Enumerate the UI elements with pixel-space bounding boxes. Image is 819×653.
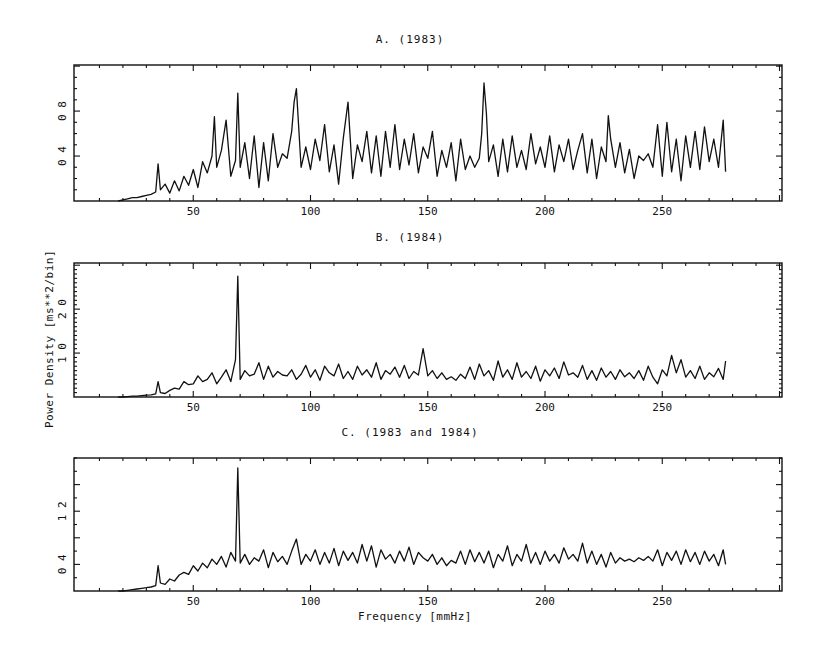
y-tick-label: 2 0: [56, 299, 69, 319]
panel-b-spectrum-line: [118, 276, 725, 397]
x-tick-label: 50: [187, 595, 200, 608]
x-tick-label: 50: [187, 401, 200, 414]
panel-a-frame: [74, 65, 782, 201]
panel-b-frame: [74, 263, 782, 397]
x-tick-label: 150: [418, 595, 438, 608]
y-tick-label: 0 8: [56, 101, 69, 121]
x-tick-label: 100: [301, 205, 321, 218]
x-tick-label: 150: [418, 205, 438, 218]
x-tick-label: 200: [535, 205, 555, 218]
x-tick-label: 250: [652, 401, 672, 414]
plot-canvas: 501001502002500 40 8501001502002501 02 0…: [0, 0, 819, 653]
panel-c-spectrum-line: [118, 468, 725, 591]
y-axis-label: Power Density [ms**2/bin]: [43, 250, 56, 428]
panel-a-spectrum-line: [118, 83, 725, 201]
x-tick-label: 200: [535, 595, 555, 608]
panel-a: 501001502002500 40 8: [56, 65, 782, 218]
panel-a-title: A. (1983): [376, 33, 445, 46]
y-tick-label: 1 2: [56, 501, 69, 521]
panel-b: 501001502002501 02 0: [56, 263, 782, 414]
x-tick-label: 100: [301, 401, 321, 414]
x-tick-label: 100: [301, 595, 321, 608]
x-tick-label: 250: [652, 595, 672, 608]
x-tick-label: 50: [187, 205, 200, 218]
x-tick-label: 200: [535, 401, 555, 414]
panel-c-title: C. (1983 and 1984): [341, 426, 478, 439]
y-tick-label: 0 4: [56, 554, 69, 574]
x-axis-label: Frequency [mmHz]: [358, 610, 472, 623]
x-tick-label: 250: [652, 205, 672, 218]
y-tick-label: 1 0: [56, 343, 69, 363]
x-tick-label: 150: [418, 401, 438, 414]
panel-c: 501001502002500 41 2: [56, 458, 782, 608]
y-tick-label: 0 4: [56, 146, 69, 166]
figure: 501001502002500 40 8501001502002501 02 0…: [0, 0, 819, 653]
panel-c-frame: [74, 458, 782, 591]
panel-b-title: B. (1984): [376, 231, 445, 244]
